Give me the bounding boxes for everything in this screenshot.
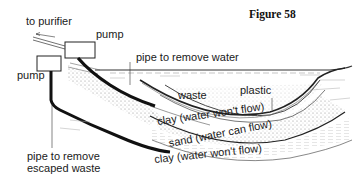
label-pipe-escaped-1: pipe to remove [27, 150, 100, 162]
upper-pump-box [65, 42, 95, 58]
label-pump-upper: pump [96, 28, 124, 40]
left-embankment [68, 63, 160, 125]
label-to-purifier: to purifier [26, 15, 72, 27]
label-plastic: plastic [240, 84, 271, 96]
landfill-diagram: Figure 58 to purifier pump pump pipe to … [0, 0, 354, 179]
ground-surface [95, 66, 352, 73]
label-pipe-remove-water: pipe to remove water [136, 51, 239, 63]
label-pump-lower: pump [17, 69, 45, 81]
label-pipe-escaped-2: escaped waste [27, 162, 100, 174]
label-waste: waste [178, 89, 207, 101]
purifier-lines [33, 33, 65, 50]
figure-title: Figure 58 [249, 8, 296, 20]
